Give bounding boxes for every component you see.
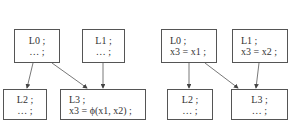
node-body: x3 = x2 ; xyxy=(241,46,283,57)
node-label: L2 ; xyxy=(172,94,208,105)
node-body: … ; xyxy=(8,105,42,116)
node-label: L0 ; xyxy=(19,35,55,46)
left-node-l3: L3 ; x3 = ϕ(x1, x2) ; xyxy=(60,89,146,120)
node-label: L3 ; xyxy=(69,94,141,105)
edge-left-l0-l2 xyxy=(27,63,33,88)
node-body: … ; xyxy=(19,46,55,57)
right-node-l1: L1 ; x3 = x2 ; xyxy=(232,29,288,63)
node-body: x3 = ϕ(x1, x2) ; xyxy=(69,105,141,116)
left-node-l1: L1 ; … ; xyxy=(82,29,125,63)
edge-right-l0-l3 xyxy=(205,63,238,88)
edge-right-l1-l3 xyxy=(256,63,259,88)
left-node-l2: L2 ; … ; xyxy=(3,89,47,120)
node-body: x3 = x1 ; xyxy=(170,46,212,57)
node-label: L1 ; xyxy=(87,35,120,46)
node-body: … ; xyxy=(87,46,120,57)
node-label: L0 ; xyxy=(170,35,212,46)
left-node-l0: L0 ; … ; xyxy=(14,29,60,63)
node-body: … ; xyxy=(236,105,283,116)
node-label: L2 ; xyxy=(8,94,42,105)
node-label: L3 ; xyxy=(236,94,283,105)
node-body: … ; xyxy=(172,105,208,116)
diagram-canvas: L0 ; … ; L1 ; … ; L2 ; … ; L3 ; x3 = ϕ(x… xyxy=(0,0,289,130)
edge-left-l0-l3 xyxy=(52,63,87,88)
right-node-l3: L3 ; … ; xyxy=(231,89,288,120)
right-node-l0: L0 ; x3 = x1 ; xyxy=(161,29,217,63)
node-label: L1 ; xyxy=(241,35,283,46)
right-node-l2: L2 ; … ; xyxy=(167,89,213,120)
